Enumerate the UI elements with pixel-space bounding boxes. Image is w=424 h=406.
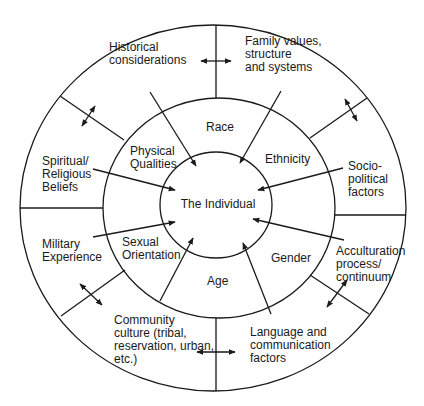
label-physical-qualities: Physical Qualities: [130, 145, 177, 171]
label-sexual-orientation: Sexual Orientation: [122, 236, 181, 262]
label-language: Language and communication factors: [250, 326, 331, 365]
divider-top-left: [60, 96, 124, 140]
label-race: Race: [200, 121, 240, 134]
divider-top-right: [310, 98, 367, 138]
label-family: Family values, structure and systems: [245, 35, 322, 74]
double-arrow-bottom-left: [80, 284, 102, 305]
double-arrow-top-left: [82, 106, 95, 126]
label-gender: Gender: [271, 252, 311, 265]
label-ethnicity: Ethnicity: [265, 153, 310, 166]
label-spiritual: Spiritual/ Religious Beliefs: [42, 155, 91, 194]
double-arrow-bottom-right: [327, 280, 347, 307]
label-age: Age: [207, 275, 228, 288]
divider-bottom-left: [61, 270, 125, 316]
arrow-language: [243, 243, 271, 314]
label-historical: Historical considerations: [109, 41, 186, 67]
label-community: Community culture (tribal, reservation, …: [114, 314, 214, 366]
label-military: Military Experience: [42, 238, 102, 264]
label-acculturation: Acculturation process/ continuum: [336, 245, 405, 284]
double-arrow-top-right: [345, 99, 357, 121]
arrow-acculturation: [253, 219, 344, 240]
label-sociopolitical: Socio- political factors: [348, 160, 388, 199]
center-label: The Individual: [178, 198, 258, 211]
